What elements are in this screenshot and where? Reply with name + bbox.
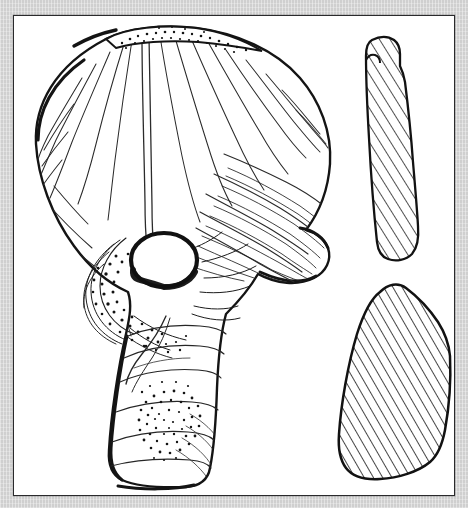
main-artifact-drawing — [36, 26, 330, 489]
plate-frame — [13, 15, 455, 496]
cross-section-butt — [339, 285, 451, 480]
cross-section-blade — [366, 37, 418, 260]
illustration-page — [0, 0, 468, 508]
artifact-illustration-svg — [14, 16, 453, 494]
